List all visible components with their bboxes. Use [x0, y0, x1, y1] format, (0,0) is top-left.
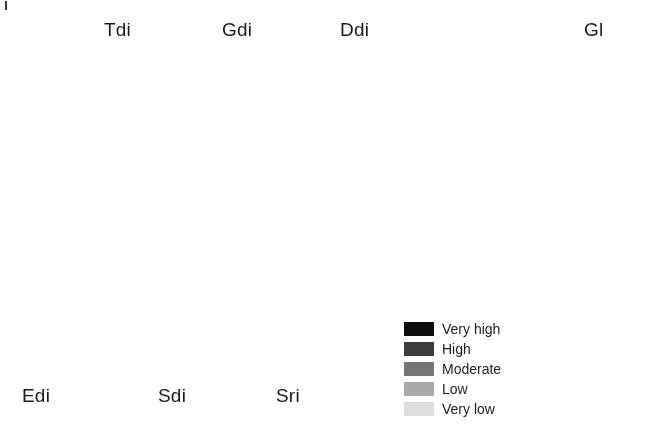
map-panel-gdi — [144, 32, 242, 222]
panel-label-gdi: Gdi — [222, 20, 252, 40]
map-panel-tdi — [24, 32, 122, 222]
legend: Very highHighModerateLowVery low — [404, 319, 530, 419]
map-panel-sdi — [152, 234, 250, 410]
legend-item: Moderate — [404, 359, 530, 379]
map-raster-sri — [268, 234, 366, 410]
map-panel-ddi — [262, 28, 366, 224]
panel-label-gl: Gl — [584, 20, 603, 40]
legend-item: Very low — [404, 399, 530, 419]
map-figure: Very highHighModerateLowVery low TdiGdiD… — [0, 0, 653, 445]
map-raster-gdi — [144, 32, 242, 222]
scan-artifact-tick — [5, 1, 7, 10]
panel-label-ddi: Ddi — [340, 20, 369, 40]
legend-swatch — [404, 322, 434, 336]
map-panel-edi — [38, 238, 134, 408]
legend-item: Low — [404, 379, 530, 399]
legend-label: Very low — [442, 402, 495, 417]
legend-swatch — [404, 362, 434, 376]
legend-swatch — [404, 342, 434, 356]
legend-label: High — [442, 342, 471, 357]
legend-item: Very high — [404, 319, 530, 339]
panel-label-sri: Sri — [276, 386, 300, 406]
panel-label-tdi: Tdi — [104, 20, 131, 40]
legend-label: Very high — [442, 322, 500, 337]
legend-swatch — [404, 402, 434, 416]
legend-swatch — [404, 382, 434, 396]
map-raster-sdi — [152, 234, 250, 410]
legend-label: Low — [442, 382, 468, 397]
legend-item: High — [404, 339, 530, 359]
panel-label-edi: Edi — [22, 386, 50, 406]
map-raster-ddi — [262, 28, 366, 224]
panel-label-sdi: Sdi — [158, 386, 186, 406]
map-raster-tdi — [24, 32, 122, 222]
legend-label: Moderate — [442, 362, 501, 377]
map-panel-sri — [268, 234, 366, 410]
map-raster-edi — [38, 238, 134, 408]
